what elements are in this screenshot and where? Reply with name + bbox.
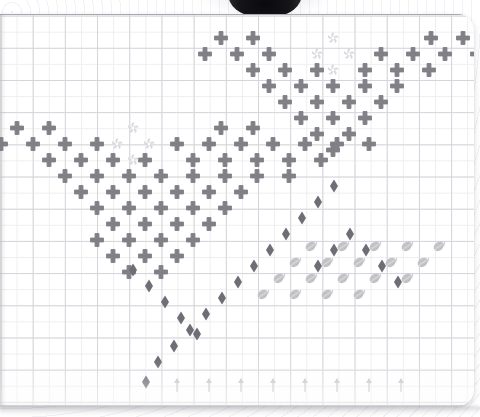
cross-marker (43, 154, 56, 167)
cross-marker (123, 234, 136, 247)
cross-marker (11, 122, 24, 135)
cross-marker (231, 48, 244, 61)
cross-marker (283, 154, 296, 167)
cross-marker (425, 32, 438, 45)
diamond-marker (298, 212, 306, 225)
diamond-marker (330, 180, 338, 193)
leaf-marker (273, 274, 286, 285)
cross-marker (91, 138, 104, 151)
cross-marker (299, 138, 312, 151)
leaf-marker (353, 258, 366, 269)
cross-marker (203, 186, 216, 199)
swirl-marker (143, 138, 155, 150)
cross-marker (331, 138, 344, 151)
cross-marker (27, 138, 40, 151)
leaf-marker (337, 242, 350, 253)
cross-marker (391, 64, 404, 77)
swirl-marker (311, 48, 323, 60)
cross-marker (139, 154, 152, 167)
cross-marker (123, 170, 136, 183)
cross-marker (375, 96, 388, 109)
cross-marker (107, 154, 120, 167)
cross-marker (171, 218, 184, 231)
cross-marker (187, 170, 200, 183)
up-arrow-marker (397, 378, 405, 392)
leaf-marker (321, 290, 334, 301)
cross-marker (219, 202, 232, 215)
diamond-marker (177, 312, 185, 325)
cross-marker (219, 170, 232, 183)
cross-marker (139, 186, 152, 199)
leaf-marker (369, 274, 382, 285)
cross-marker (263, 80, 276, 93)
cross-marker (407, 48, 420, 61)
cross-marker (203, 138, 216, 151)
cross-marker (187, 154, 200, 167)
up-arrow-marker (237, 378, 245, 392)
diamond-marker (234, 276, 242, 289)
up-arrow-marker (333, 378, 341, 392)
cross-marker (247, 32, 260, 45)
cross-marker (235, 186, 248, 199)
cross-marker (171, 186, 184, 199)
cross-marker (363, 138, 376, 151)
cross-marker (247, 64, 260, 77)
cross-marker (391, 80, 404, 93)
cross-marker (359, 112, 372, 125)
cross-marker (75, 186, 88, 199)
cross-marker (171, 138, 184, 151)
cross-marker (75, 154, 88, 167)
cross-marker (279, 64, 292, 77)
screenshot-stage (0, 0, 480, 417)
up-arrow-marker (205, 378, 213, 392)
swirl-marker (327, 64, 339, 76)
cross-marker (359, 80, 372, 93)
cross-marker (251, 154, 264, 167)
diamond-marker (282, 228, 290, 241)
leaf-marker (305, 274, 318, 285)
diamond-marker (250, 260, 258, 273)
leaf-marker (289, 258, 302, 269)
up-arrow-marker (301, 378, 309, 392)
cross-marker (139, 250, 152, 263)
cross-marker (59, 138, 72, 151)
diamond-marker (202, 308, 210, 321)
graph-paper-sheet (0, 14, 474, 406)
diamond-marker (161, 296, 169, 309)
cross-marker (155, 234, 168, 247)
cross-marker (139, 218, 152, 231)
swirl-marker (343, 48, 355, 60)
leaf-marker (401, 242, 414, 253)
leaf-marker (353, 290, 366, 301)
cross-marker (219, 154, 232, 167)
cross-marker (359, 64, 372, 77)
cross-marker (311, 64, 324, 77)
cross-marker (215, 32, 228, 45)
leaf-marker (401, 274, 414, 285)
diamond-marker (142, 376, 150, 389)
cross-marker (235, 138, 248, 151)
leaf-marker (321, 258, 334, 269)
cross-marker (311, 96, 324, 109)
swirl-marker (327, 32, 339, 44)
leaf-marker (417, 258, 430, 269)
cross-marker (59, 170, 72, 183)
leaf-marker (305, 242, 318, 253)
cross-marker (43, 122, 56, 135)
swirl-marker (127, 122, 139, 134)
cross-marker (155, 202, 168, 215)
diamond-marker (218, 292, 226, 305)
cross-marker (279, 96, 292, 109)
diamond-marker (129, 264, 137, 277)
cross-marker (247, 122, 260, 135)
cross-marker (91, 234, 104, 247)
cross-marker (187, 202, 200, 215)
leaf-marker (369, 242, 382, 253)
cross-marker (439, 48, 452, 61)
diamond-marker (314, 196, 322, 209)
diamond-marker (154, 356, 162, 369)
cross-marker (171, 250, 184, 263)
cross-marker (327, 80, 340, 93)
cross-marker (91, 170, 104, 183)
up-arrow-marker (269, 378, 277, 392)
